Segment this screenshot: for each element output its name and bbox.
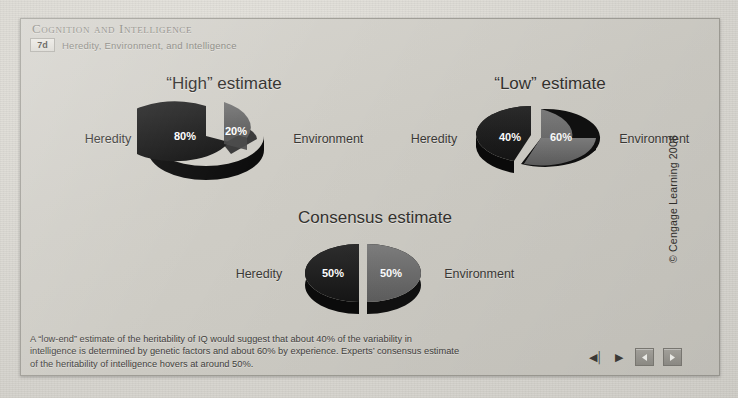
slice-label-environment: Environment (444, 267, 514, 281)
slice-label-environment: Environment (293, 132, 363, 146)
slice-label-heredity: Heredity (236, 267, 283, 281)
slice-value-heredity: 80% (174, 130, 196, 142)
back-arrow-icon (640, 353, 649, 362)
slice-value-heredity: 40% (499, 131, 521, 143)
slice-value-environment: 20% (225, 125, 247, 137)
chart-title: “Low” estimate (400, 74, 700, 94)
pie-svg: 80% 20% (137, 98, 287, 180)
figure-caption: A “low-end” estimate of the heritability… (30, 333, 460, 370)
slice-value-environment: 60% (550, 131, 572, 143)
pie-svg: 40% 60% (463, 98, 613, 180)
forward-arrow-icon (668, 353, 677, 362)
forward-button[interactable] (663, 348, 682, 366)
chart-title: “High” estimate (84, 74, 364, 94)
slice-value-environment: 50% (380, 267, 402, 279)
section-badge: 7d (30, 38, 55, 52)
pie-row: Heredity (225, 232, 525, 316)
play-button[interactable]: ▶ (612, 350, 626, 364)
copyright-notice: © Cengage Learning 2008 (667, 135, 679, 263)
chart-high-estimate: “High” estimate Heredity (84, 74, 364, 180)
page-title: Cognition and Intelligence (28, 22, 712, 36)
section-subtitle: Heredity, Environment, and Intelligence (62, 40, 237, 51)
header: Cognition and Intelligence 7d Heredity, … (28, 22, 712, 56)
slice-label-heredity: Heredity (411, 132, 458, 146)
pie-chart: 50% 50% (288, 232, 438, 316)
figure-page: Cognition and Intelligence 7d Heredity, … (0, 0, 738, 398)
pie-svg: 50% 50% (288, 232, 438, 316)
pie-row: Heredity (84, 98, 364, 180)
slide-panel: Cognition and Intelligence 7d Heredity, … (20, 18, 720, 376)
back-button[interactable] (635, 348, 654, 366)
header-subtitle-row: 7d Heredity, Environment, and Intelligen… (28, 38, 712, 52)
chart-consensus-estimate: Consensus estimate Heredity (225, 208, 525, 316)
slice-value-heredity: 50% (322, 267, 344, 279)
previous-button[interactable]: ◀│ (589, 350, 603, 364)
pie-chart: 40% 60% (463, 98, 613, 180)
slice-label-heredity: Heredity (85, 132, 132, 146)
chart-low-estimate: “Low” estimate Heredity (400, 74, 700, 180)
pie-row: Heredity (400, 98, 700, 180)
media-controls: ◀│ ▶ (589, 348, 682, 366)
chart-title: Consensus estimate (225, 208, 525, 228)
pie-chart: 80% 20% (137, 98, 287, 180)
